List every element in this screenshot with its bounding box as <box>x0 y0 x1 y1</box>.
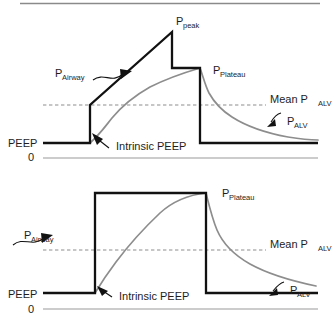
airway-pressure-waveform-top <box>43 32 318 143</box>
ventilator-pressure-waveform-figure: P peak P Airway P Plateau Mean P ALV P A… <box>0 0 333 329</box>
palv-leader-line-bottom <box>273 282 284 291</box>
label-zero-bottom: 0 <box>28 303 34 315</box>
alveolar-pressure-curve-top <box>90 68 318 143</box>
label-pairway-sub-bottom: Airway <box>31 235 54 244</box>
label-pplateau-sub-top: Plateau <box>220 70 245 79</box>
top-panel-group: P peak P Airway P Plateau Mean P ALV P A… <box>8 15 332 163</box>
label-ppeak-sub: peak <box>183 21 200 30</box>
label-zero-top: 0 <box>28 151 34 163</box>
intrinsic-peep-arrowhead-bottom <box>97 286 108 296</box>
label-palv-sub-top: ALV <box>294 121 308 130</box>
label-peep-bottom: PEEP <box>8 288 37 300</box>
label-mean-palv-base-top: Mean P <box>270 93 308 105</box>
label-pplateau-sub-bottom: Plateau <box>229 193 254 202</box>
bottom-panel-group: P Airway P Plateau Mean P ALV P ALV PEEP… <box>8 187 332 315</box>
label-mean-palv-sub-bottom: ALV <box>318 244 332 253</box>
label-intrinsic-peep-bottom: Intrinsic PEEP <box>119 290 189 302</box>
label-mean-palv-sub-top: ALV <box>318 99 332 108</box>
label-peep-top: PEEP <box>8 137 37 149</box>
label-pairway-sub-top: Airway <box>62 73 85 82</box>
palv-leader-line-top <box>271 113 281 122</box>
waveform-svg-canvas: P peak P Airway P Plateau Mean P ALV P A… <box>0 0 333 329</box>
label-intrinsic-peep-top: Intrinsic PEEP <box>116 140 186 152</box>
label-mean-palv-base-bottom: Mean P <box>270 238 308 250</box>
label-palv-sub-bottom: ALV <box>297 290 311 299</box>
